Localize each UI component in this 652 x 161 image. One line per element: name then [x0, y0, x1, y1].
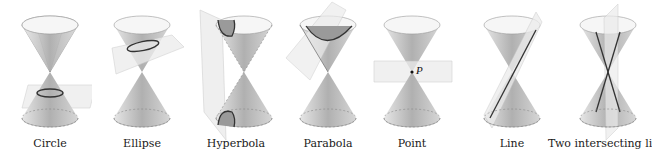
point-label: P: [416, 64, 423, 76]
label-two-intersecting-lines: Two intersecting lines: [548, 137, 652, 150]
label-parabola: Parabola: [300, 137, 356, 150]
panel-ellipse: Ellipse: [92, 0, 184, 161]
panel-circle: Circle: [0, 0, 92, 161]
panel-hyperbola: Hyperbola: [184, 0, 276, 161]
panel-parabola: Parabola: [276, 0, 368, 161]
panel-two-intersecting-lines: Two intersecting lines: [548, 0, 652, 161]
label-line: Line: [496, 137, 528, 150]
point-p-marker: [410, 70, 413, 73]
label-circle: Circle: [28, 137, 72, 150]
label-ellipse: Ellipse: [118, 137, 166, 150]
panel-line: Line: [460, 0, 552, 161]
label-hyperbola: Hyperbola: [204, 137, 268, 150]
label-point: Point: [386, 137, 438, 150]
panel-point: P Point: [368, 0, 460, 161]
conic-sections-figure: Circle Ellipse: [0, 0, 652, 161]
